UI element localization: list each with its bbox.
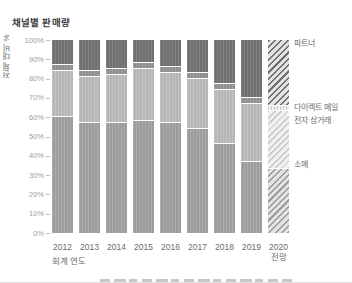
y-tick-mark (46, 117, 50, 118)
segment-retail (268, 169, 289, 233)
legend-item-retail: 소매 (294, 160, 308, 170)
segment-retail (214, 144, 235, 233)
y-tick-label: 90% (0, 54, 44, 65)
segment-retail (160, 123, 181, 233)
y-tick-mark (46, 40, 50, 41)
y-tick-label: 70% (0, 92, 44, 103)
y-tick-mark (46, 156, 50, 157)
y-tick-label: 40% (0, 150, 44, 161)
x-axis-label: 회계 연도 (52, 254, 86, 266)
segment-retail (106, 123, 127, 233)
segment-partner (214, 40, 235, 84)
segment-partner (133, 40, 154, 63)
segment-ecommerce (214, 90, 235, 144)
y-tick-mark (46, 98, 50, 99)
y-tick-mark (46, 194, 50, 195)
stacked-bar-chart-figure: 채널별 판매량 전체 대비 % 0%10%20%30%40%50%60%70%8… (0, 0, 352, 283)
x-tick-label: 2019 (241, 242, 262, 262)
x-tick-label: 2020전망 (268, 242, 289, 262)
x-tick-label: 2018 (214, 242, 235, 262)
segment-ecommerce (106, 75, 127, 123)
bar-2020-전망 (268, 40, 289, 233)
y-tick-label: 50% (0, 131, 44, 142)
segment-retail (241, 162, 262, 233)
segment-partner (187, 40, 208, 73)
plot-area (52, 40, 289, 233)
segment-partner (106, 40, 127, 69)
chart-title: 채널별 판매량 (12, 15, 70, 29)
x-axis-tick-labels: 201220132014201520162017201820192020전망 (52, 242, 289, 262)
y-tick-label: 0% (0, 228, 44, 239)
y-tick-label: 60% (0, 112, 44, 123)
bar-2015 (133, 40, 154, 233)
y-tick-mark (46, 175, 50, 176)
segment-retail (79, 123, 100, 233)
bar-2019 (241, 40, 262, 233)
bar-2018 (214, 40, 235, 233)
segment-ecommerce (52, 71, 73, 117)
y-tick-label: 80% (0, 73, 44, 84)
legend-item-ecommerce: 전자 상거래 (294, 116, 331, 126)
segment-partner (160, 40, 181, 67)
bar-2016 (160, 40, 181, 233)
y-tick-label: 10% (0, 208, 44, 219)
segment-ecommerce (268, 111, 289, 169)
segment-retail (52, 117, 73, 233)
x-tick-label: 2015 (133, 242, 154, 262)
bar-2017 (187, 40, 208, 233)
bar-2012 (52, 40, 73, 233)
segment-retail (133, 121, 154, 233)
y-tick-mark (46, 137, 50, 138)
segment-partner (268, 40, 289, 106)
legend-item-direct-mail: 다이렉트 메일 (294, 103, 338, 113)
segment-ecommerce (79, 77, 100, 123)
segment-ecommerce (241, 104, 262, 162)
y-tick-mark (46, 79, 50, 80)
segment-partner (52, 40, 73, 65)
x-tick-label: 2017 (187, 242, 208, 262)
y-tick-label: 30% (0, 170, 44, 181)
bar-2014 (106, 40, 127, 233)
segment-partner (241, 40, 262, 98)
y-tick-label: 20% (0, 189, 44, 200)
bar-2013 (79, 40, 100, 233)
x-tick-label: 2016 (160, 242, 181, 262)
y-tick-mark (46, 59, 50, 60)
segment-ecommerce (187, 79, 208, 129)
y-tick-mark (46, 214, 50, 215)
segment-ecommerce (160, 73, 181, 123)
y-tick-mark (46, 233, 50, 234)
y-tick-label: 100% (0, 35, 44, 46)
legend-item-partner: 파트너 (294, 39, 315, 49)
segment-partner (79, 40, 100, 71)
x-tick-label: 2014 (106, 242, 127, 262)
segment-ecommerce (133, 69, 154, 121)
segment-retail (187, 129, 208, 233)
